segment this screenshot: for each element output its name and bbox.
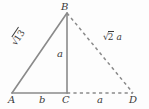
vertex-label-C: C bbox=[62, 95, 70, 105]
vertex-label-A: A bbox=[8, 95, 15, 105]
vertex-label-B: B bbox=[61, 2, 68, 12]
figure-canvas bbox=[0, 0, 149, 109]
side-label-BC: a bbox=[57, 49, 63, 59]
side-label-BD-radical: √2a bbox=[103, 33, 122, 42]
edge-BD bbox=[67, 13, 133, 93]
geometry-figure: A B C D b a a √13 √2a bbox=[0, 0, 149, 109]
side-label-CD: a bbox=[97, 95, 103, 105]
vertex-label-D: D bbox=[129, 95, 137, 105]
radical-coefficient: a bbox=[114, 32, 121, 42]
side-label-AC: b bbox=[39, 95, 45, 105]
